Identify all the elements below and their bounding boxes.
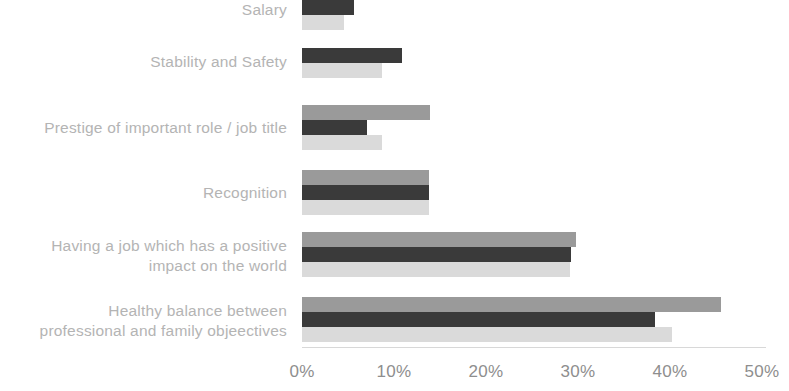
bar-series-c: [302, 63, 382, 78]
x-tick-label: 50%: [722, 362, 789, 382]
bar-series-c: [302, 135, 382, 150]
plot-area: Salary Stability and Safety Prestige of …: [0, 0, 789, 348]
category-label: Having a job which has a positive impact…: [0, 236, 287, 276]
category-label: Stability and Safety: [0, 52, 287, 72]
x-tick-label: 30%: [538, 362, 618, 382]
bar-series-c: [302, 327, 672, 342]
category-label: Healthy balance between professional and…: [0, 301, 287, 341]
x-tick-label: 0%: [262, 362, 342, 382]
bar-series-b: [302, 48, 402, 63]
x-tick-label: 20%: [446, 362, 526, 382]
bar-series-c: [302, 200, 429, 215]
bar-series-b: [302, 120, 367, 135]
x-tick-label: 10%: [354, 362, 434, 382]
category-label: Salary: [0, 0, 287, 20]
x-axis-ticks: 0% 10% 20% 30% 40% 50%: [0, 362, 789, 386]
bar-series-b: [302, 185, 429, 200]
bar-series-b: [302, 247, 571, 262]
category-label: Recognition: [0, 183, 287, 203]
horizontal-bar-chart: Salary Stability and Safety Prestige of …: [0, 0, 789, 391]
bar-series-c: [302, 15, 344, 30]
bar-series-a: [302, 297, 721, 312]
bar-series-a: [302, 170, 429, 185]
bar-series-a: [302, 232, 576, 247]
x-tick-label: 40%: [630, 362, 710, 382]
category-label: Prestige of important role / job title: [0, 118, 287, 138]
bar-series-a: [302, 105, 430, 120]
x-axis-line: [302, 347, 766, 348]
bar-series-b: [302, 0, 354, 15]
bar-series-b: [302, 312, 655, 327]
bar-series-c: [302, 262, 570, 277]
